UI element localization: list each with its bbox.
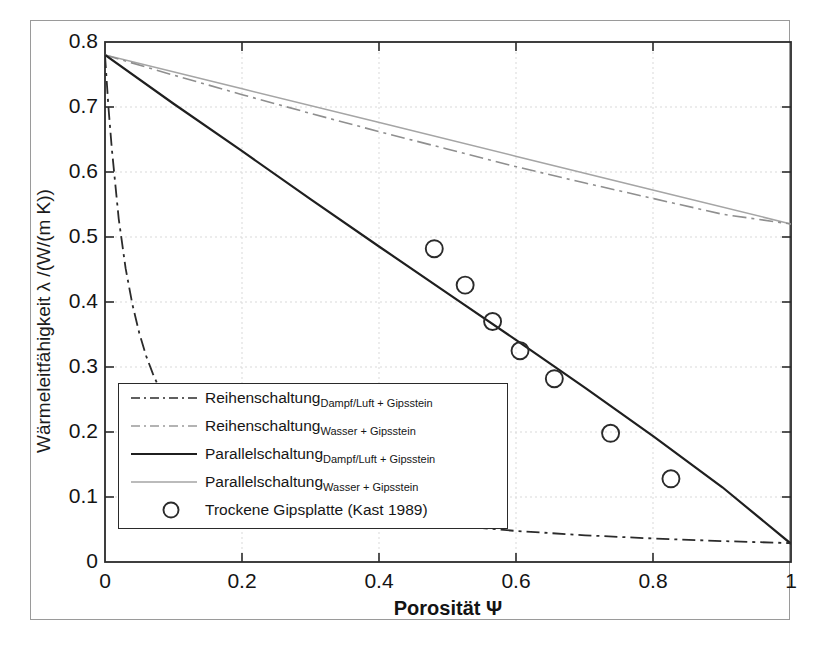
y-tick-6: 0.2 [69, 420, 98, 441]
y-axis-title: Wärmeleitfähigkeit λ /(W/(m K)) [33, 111, 55, 531]
legend-item-3[interactable]: ParallelschaltungWasser + Gipsstein [119, 468, 507, 496]
legend-item-subscript: Wasser + Gipsstein [323, 481, 418, 493]
legend-item-0[interactable]: ReihenschaltungDampf/Luft + Gipsstein [119, 384, 507, 412]
x-axis-title: Porosität Ψ [105, 597, 791, 620]
legend-item-4[interactable]: Trockene Gipsplatte (Kast 1989) [119, 496, 507, 524]
data-point-marker [512, 342, 529, 359]
legend-item-label: ReihenschaltungWasser + Gipsstein [201, 417, 416, 435]
legend-item-label: ReihenschaltungDampf/Luft + Gipsstein [201, 389, 433, 407]
y-tick-5: 0.3 [69, 355, 98, 376]
legend-item-label: ParallelschaltungDampf/Luft + Gipsstein [201, 445, 435, 463]
series-parallel-wasser [105, 55, 791, 224]
x-tick-4: 0.8 [623, 570, 683, 591]
legend-item-subscript: Wasser + Gipsstein [320, 425, 415, 437]
x-tick-1: 0.2 [212, 570, 272, 591]
data-point-marker [457, 277, 474, 294]
y-tick-1: 0.7 [69, 95, 98, 116]
x-tick-0: 0 [75, 570, 135, 591]
x-tick-2: 0.4 [349, 570, 409, 591]
data-point-marker [662, 470, 679, 487]
legend-item-2[interactable]: ParallelschaltungDampf/Luft + Gipsstein [119, 440, 507, 468]
legend-item-1[interactable]: ReihenschaltungWasser + Gipsstein [119, 412, 507, 440]
y-tick-4: 0.4 [69, 290, 98, 311]
y-tick-0: 0.8 [69, 30, 98, 51]
x-tick-5: 1 [761, 570, 816, 591]
legend-line-icon [127, 444, 201, 464]
data-point-marker [484, 313, 501, 330]
legend: ReihenschaltungDampf/Luft + GipssteinRei… [118, 383, 508, 529]
figure-root: 0.8 0.7 0.6 0.5 0.4 0.3 0.2 0.1 0 0 0.2 … [0, 0, 816, 653]
y-tick-2: 0.6 [69, 160, 98, 181]
legend-line-icon [127, 416, 201, 436]
legend-marker-circle-icon [127, 500, 201, 520]
legend-item-subscript: Dampf/Luft + Gipsstein [320, 397, 432, 409]
data-point-marker [546, 370, 563, 387]
y-tick-7: 0.1 [69, 485, 98, 506]
data-point-marker [602, 425, 619, 442]
legend-item-label: Trockene Gipsplatte (Kast 1989) [201, 501, 428, 519]
legend-item-subscript: Dampf/Luft + Gipsstein [323, 453, 435, 465]
x-tick-3: 0.6 [486, 570, 546, 591]
y-tick-8: 0 [86, 550, 98, 571]
data-point-marker [426, 240, 443, 257]
legend-item-label: ParallelschaltungWasser + Gipsstein [201, 473, 418, 491]
legend-line-icon [127, 388, 201, 408]
y-tick-3: 0.5 [69, 225, 98, 246]
plot-canvas [0, 0, 816, 653]
legend-line-icon [127, 472, 201, 492]
